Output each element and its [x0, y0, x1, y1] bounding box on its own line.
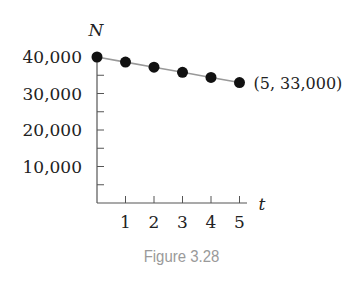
x-tick-label: 2 — [149, 212, 160, 232]
x-tick-labels: 12345 — [120, 212, 245, 232]
data-point — [149, 62, 160, 73]
x-tick-label: 5 — [234, 212, 245, 232]
data-point — [234, 77, 245, 88]
y-ticks — [97, 75, 104, 185]
x-ticks — [126, 196, 240, 203]
data-point — [92, 52, 103, 63]
data-point — [177, 67, 188, 78]
y-tick-labels: 10,00020,00030,00040,000 — [23, 47, 82, 177]
y-tick-label: 40,000 — [23, 47, 82, 67]
x-tick-label: 3 — [177, 212, 188, 232]
chart-canvas: 10,00020,00030,00040,000 12345 N t (5, 3… — [0, 0, 363, 281]
figure-caption: Figure 3.28 — [22, 247, 341, 267]
y-tick-label: 10,000 — [23, 157, 82, 177]
data-point — [120, 57, 131, 68]
x-tick-label: 4 — [206, 212, 217, 232]
x-tick-label: 1 — [120, 212, 131, 232]
y-tick-label: 20,000 — [23, 120, 82, 140]
y-axis-label: N — [88, 20, 105, 40]
data-point — [206, 72, 217, 83]
x-axis-label: t — [259, 194, 266, 214]
point-annotation: (5, 33,000) — [254, 74, 343, 93]
data-line — [97, 57, 240, 83]
y-tick-label: 30,000 — [23, 84, 82, 104]
